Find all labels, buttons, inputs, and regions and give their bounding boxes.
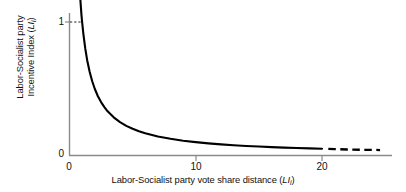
x-axis-title-var: LI [282,174,290,185]
y-axis-title-line2-text: Incentive Index ( [25,30,36,97]
x-axis-title: Labor-Socialist party vote share distanc… [0,174,406,186]
y-axis-title-var: LI [25,22,36,30]
y-axis-title-paren: ) [25,17,36,20]
y-tick-label-1: 1 [50,16,64,27]
y-axis-title-subscript: i [30,20,37,21]
y-axis-title-line2: Incentive Index (LIi) [25,17,38,96]
x-axis-title-text: Labor-Socialist party vote share distanc… [112,174,283,185]
x-tick-label-10: 10 [186,161,206,172]
incentive-index-curve [79,0,322,149]
y-axis-title: Labor-Socialist party Incentive Index (L… [9,0,43,127]
y-axis-title-line1: Labor-Socialist party [14,15,25,98]
chart-figure: 1 0 0 10 20 Labor-Socialist party Incent… [0,0,406,192]
x-tick-label-20: 20 [312,161,332,172]
y-tick-label-0: 0 [50,148,64,159]
x-axis-title-paren: ) [291,174,294,185]
x-tick-label-0: 0 [59,161,79,172]
incentive-index-curve-extrapolated [328,149,380,150]
